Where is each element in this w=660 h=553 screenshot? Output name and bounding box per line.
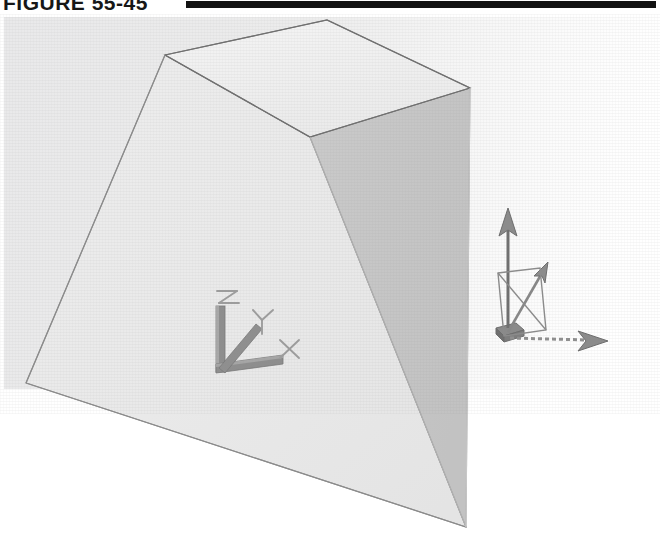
ucs-3d-arrow-icon	[496, 208, 608, 351]
ucs-arrow-y	[508, 262, 548, 332]
ucs-arrow-x	[510, 331, 608, 351]
figure-page: FIGURE 55-45	[0, 0, 660, 553]
cad-viewport: Z Y X	[0, 0, 660, 553]
